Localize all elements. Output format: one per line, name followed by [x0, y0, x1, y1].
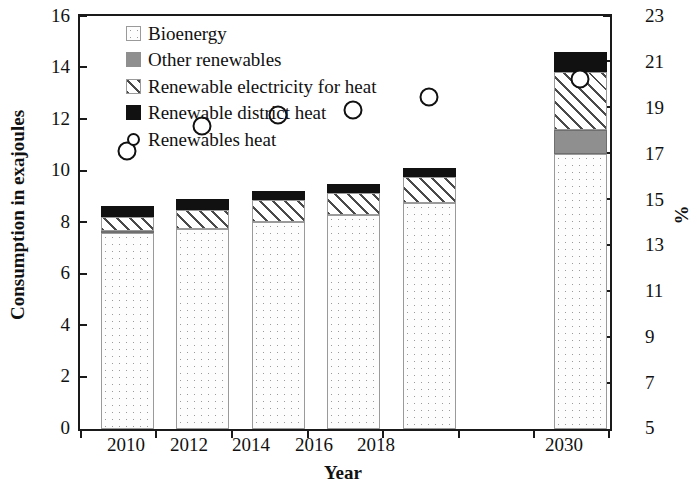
- bar-2014[interactable]: [252, 191, 305, 429]
- bar-2014-segment-renewable-electricity: [252, 200, 305, 222]
- y-tick-right-5: 5: [645, 418, 685, 437]
- marker-renewables-heat-2030: [571, 70, 590, 89]
- x-tick-2010: 2010: [91, 434, 161, 456]
- legend: Bioenergy Other renewables Renewable ele…: [126, 20, 376, 153]
- bar-2016[interactable]: [327, 184, 380, 429]
- bar-2010-segment-renewable-electricity: [101, 217, 154, 231]
- legend-label-renewables-heat: Renewables heat: [148, 130, 276, 149]
- y-tick-left-2: 2: [30, 366, 70, 385]
- y-axis-left-title-text: Consumption in exajoules: [7, 110, 29, 320]
- y-tick-right-11: 11: [645, 281, 685, 300]
- bar-2012[interactable]: [176, 199, 229, 429]
- legend-label-bioenergy: Bioenergy: [148, 24, 227, 43]
- tick-left-8: [80, 221, 87, 223]
- y-tick-left-6: 6: [30, 263, 70, 282]
- bar-2016-segment-renewable-district-heat: [327, 184, 380, 193]
- legend-label-renewable-electricity-for-heat: Renewable electricity for heat: [148, 77, 376, 96]
- bar-2016-segment-renewable-electricity: [327, 193, 380, 215]
- bar-2010-segment-renewable-district-heat: [101, 206, 154, 217]
- stacked-bar-chart: Consumption in exajoules % Year 16 14 12…: [0, 0, 697, 491]
- bar-2010-segment-other-renewables: [101, 231, 154, 233]
- tick-left-6: [80, 273, 87, 275]
- renewable-electricity-swatch-icon: [126, 79, 141, 94]
- renewables-heat-marker-icon: [127, 133, 140, 146]
- y-tick-left-4: 4: [30, 315, 70, 334]
- y-tick-right-19: 19: [645, 98, 685, 117]
- y-tick-right-17: 17: [645, 144, 685, 163]
- bar-2030[interactable]: [554, 52, 607, 429]
- legend-item-other-renewables: Other renewables: [126, 47, 376, 74]
- x-tick-2016: 2016: [279, 434, 349, 456]
- bar-2030-segment-bioenergy: [554, 154, 607, 429]
- x-tick-2030: 2030: [529, 434, 599, 456]
- y-tick-left-12: 12: [30, 109, 70, 128]
- y-tick-left-10: 10: [30, 160, 70, 179]
- x-tickmark-2: [231, 431, 233, 438]
- bar-2010[interactable]: [101, 206, 154, 429]
- y-tick-right-13: 13: [645, 235, 685, 254]
- y-tick-right-15: 15: [645, 190, 685, 209]
- other-renewables-swatch-icon: [126, 52, 141, 67]
- bar-2018-segment-bioenergy: [403, 203, 456, 429]
- y-tick-right-7: 7: [645, 373, 685, 392]
- y-tick-right-23: 23: [645, 6, 685, 25]
- bar-2012-segment-bioenergy: [176, 229, 229, 429]
- legend-item-renewables-heat: Renewables heat: [126, 126, 376, 153]
- x-tickmark-0: [80, 431, 82, 438]
- x-tickmark-3: [307, 431, 309, 438]
- legend-item-bioenergy: Bioenergy: [126, 20, 376, 47]
- bar-2014-segment-renewable-district-heat: [252, 191, 305, 200]
- legend-label-renewable-district-heat: Renewable district heat: [148, 103, 326, 122]
- y-tick-left-8: 8: [30, 212, 70, 231]
- x-tickmark-6: [533, 431, 535, 438]
- legend-label-other-renewables: Other renewables: [148, 50, 281, 69]
- x-tick-2014: 2014: [216, 434, 286, 456]
- renewable-district-heat-swatch-icon: [126, 105, 141, 120]
- bar-2018[interactable]: [403, 168, 456, 429]
- tick-left-2: [80, 376, 87, 378]
- x-tick-2012: 2012: [154, 434, 224, 456]
- x-tickmark-5: [458, 431, 460, 438]
- tick-left-14: [80, 66, 87, 68]
- y-tick-left-0: 0: [30, 418, 70, 437]
- bar-2012-segment-renewable-electricity: [176, 210, 229, 229]
- bar-2016-segment-bioenergy: [327, 215, 380, 429]
- tick-left-10: [80, 170, 87, 172]
- tick-left-16: [80, 15, 87, 17]
- x-tickmark-4: [382, 431, 384, 438]
- tick-left-4: [80, 324, 87, 326]
- bar-2014-segment-bioenergy: [252, 222, 305, 429]
- marker-renewables-heat-2018: [420, 88, 439, 107]
- legend-item-renewable-electricity-for-heat: Renewable electricity for heat: [126, 73, 376, 100]
- x-axis-title: Year: [78, 462, 608, 484]
- x-tick-2018: 2018: [341, 434, 411, 456]
- plot-area: Bioenergy Other renewables Renewable ele…: [78, 14, 612, 431]
- tick-left-12: [80, 118, 87, 120]
- bar-2030-segment-other-renewables: [554, 130, 607, 154]
- bar-2018-segment-renewable-electricity: [403, 177, 456, 203]
- y-tick-left-14: 14: [30, 57, 70, 76]
- bar-2012-segment-renewable-district-heat: [176, 199, 229, 210]
- bar-2018-segment-renewable-district-heat: [403, 168, 456, 177]
- x-tickmark-7: [608, 431, 610, 438]
- tick-right-23: [603, 15, 610, 17]
- y-tick-right-21: 21: [645, 52, 685, 71]
- x-tickmark-1: [155, 431, 157, 438]
- bar-2010-segment-bioenergy: [101, 233, 154, 429]
- legend-item-renewable-district-heat: Renewable district heat: [126, 100, 376, 127]
- y-tick-right-9: 9: [645, 327, 685, 346]
- y-tick-left-16: 16: [30, 6, 70, 25]
- bioenergy-swatch-icon: [126, 26, 141, 41]
